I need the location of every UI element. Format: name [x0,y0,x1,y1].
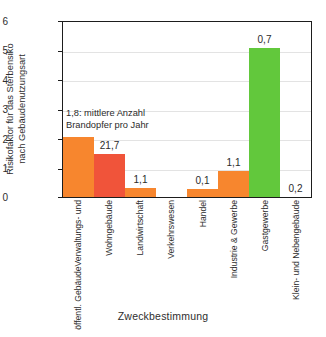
bar-value-label: 0,7 [249,35,280,45]
bar[interactable] [125,188,156,197]
x-category-cell: Industrie & Gewerbe [218,198,249,310]
bar-cell: 1,1 [218,22,249,197]
annotation-note: 1,8: mittlere Anzahl Brandopfer pro Jahr [66,108,149,131]
x-category-cell: Verkehrswesen [156,198,187,310]
bar-value-label: 1,1 [218,158,249,168]
x-category-label-line: Klein- und Nebengebäude [291,200,301,300]
bar[interactable] [63,137,94,197]
x-axis-category-labels: Verwaltungs- undöffentl. GebäudeWohngebä… [62,198,312,310]
x-category-cell: Wohngebäude [93,198,124,310]
y-tick-6: 6 [0,17,8,27]
x-category-cell: Klein- und Nebengebäude [281,198,312,310]
y-tick-5: 5 [0,46,8,56]
bar[interactable] [218,171,249,197]
y-tick-2: 2 [0,135,8,145]
x-category-label-line: Landwirtschaft [135,200,145,255]
bar-value-label: 0,2 [280,184,311,194]
x-category-label-line: Handel [198,200,208,227]
bar-value-label: 21,7 [94,141,125,151]
x-category-label: Gastgewerbe [260,200,270,251]
bar[interactable] [94,154,125,197]
bar-value-label: 1,1 [125,175,156,185]
annotation-line-1: 1,8: mittlere Anzahl [66,108,145,118]
x-category-label-line: Gastgewerbe [260,200,270,251]
x-category-label-line: Industrie & Gewerbe [229,200,239,278]
x-category-label: Landwirtschaft [135,200,145,255]
y-tick-3: 3 [0,105,8,115]
x-category-label-line: Verwaltungs- und [73,200,83,266]
x-axis-title: Zweckbestimmung [0,310,326,322]
x-category-label-line: Wohngebäude [104,200,114,256]
bar-cell [156,22,187,197]
x-category-label: Verkehrswesen [166,200,176,259]
x-category-label: Wohngebäude [104,200,114,256]
bar-value-label: 0,1 [187,176,218,186]
y-axis-title-line-2: nach Gebäudenutzungsart [17,54,29,164]
chart-figure: Risikofaktor für das Sterbensiko nach Ge… [0,0,326,337]
y-tick-4: 4 [0,76,8,86]
x-category-cell: Landwirtschaft [125,198,156,310]
annotation-line-2: Brandopfer pro Jahr [66,120,149,130]
bar[interactable] [249,48,280,197]
bar[interactable] [187,189,218,197]
y-tick-1: 1 [0,164,8,174]
x-category-cell: Gastgewerbe [250,198,281,310]
bar-cell: 0,1 [187,22,218,197]
x-category-label: Industrie & Gewerbe [229,200,239,278]
x-category-label: Handel [198,200,208,227]
y-tick-0: 0 [0,193,8,203]
x-category-cell: Handel [187,198,218,310]
bar-cell: 0,2 [280,22,311,197]
x-category-label-line: Verkehrswesen [166,200,176,259]
x-category-label: Klein- und Nebengebäude [291,200,301,300]
x-category-cell: Verwaltungs- undöffentl. Gebäude [62,198,93,310]
bar-cell: 0,7 [249,22,280,197]
